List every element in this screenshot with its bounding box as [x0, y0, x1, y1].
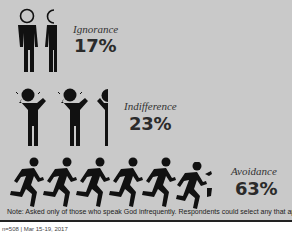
category-label: Indifference — [124, 100, 177, 112]
partial-standing-person-icon — [44, 8, 60, 74]
running-person-icon — [8, 157, 44, 207]
shrugging-person-icon — [8, 88, 48, 148]
category-value: 63% — [235, 178, 277, 199]
running-person-icon — [41, 157, 77, 207]
shrugging-person-icon — [50, 88, 90, 148]
running-person-icon — [175, 162, 215, 210]
running-person-icon — [140, 157, 176, 207]
partial-shrugging-person-icon — [94, 88, 112, 148]
divider — [0, 220, 292, 222]
footnote: Note: Asked only of those who speak God … — [7, 208, 292, 215]
category-value: 23% — [129, 113, 171, 134]
running-person-icon — [107, 157, 143, 207]
running-person-icon — [74, 157, 110, 207]
source-line: n=508 | Mar 15-19, 2017 — [2, 226, 68, 232]
category-label: Avoidance — [231, 165, 277, 177]
standing-person-icon — [14, 8, 40, 74]
infographic-panel: Ignorance 17% Indifference 23% — [0, 0, 292, 221]
category-label: Ignorance — [73, 23, 118, 35]
category-value: 17% — [74, 35, 116, 56]
